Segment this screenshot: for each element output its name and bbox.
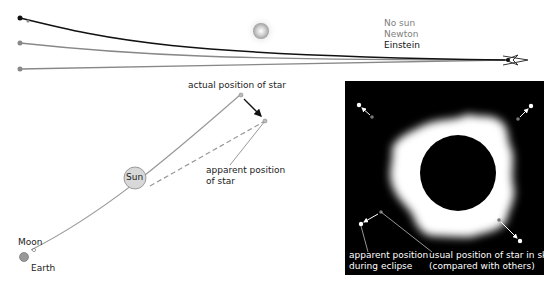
legend: No sun Newton Einstein [384,18,420,51]
eye-icon [503,55,528,65]
legend-no-sun: No sun [384,18,420,29]
label-actual-position: actual position of star [188,80,286,90]
no-sun-path [20,60,505,69]
moon-disk [420,135,496,211]
legend-newton: Newton [384,29,420,40]
label-usual-position: usual position of star in sky (compared … [429,250,552,272]
label-apparent-position: apparent position of star [206,165,285,187]
top-panel [18,15,529,72]
label-moon: Moon [18,237,42,247]
label-earth: Earth [31,263,55,273]
eclipse-panel [345,81,544,275]
moon-icon [32,248,35,251]
label-sun: Sun [126,172,143,182]
legend-einstein: Einstein [384,40,420,51]
label-apparent-during-eclipse: apparent position during eclipse [349,250,428,272]
light-bending-diagram [0,0,559,286]
earth-icon [20,253,29,262]
sun-icon [245,15,277,47]
